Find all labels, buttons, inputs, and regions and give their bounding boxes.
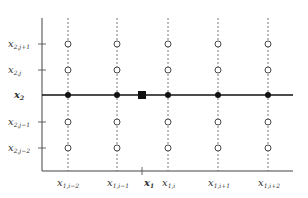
interpolation-diagram: x2,j+1 x2,j x2 x2,j−1 x2,j−2 x1,i−2 x1,i…	[0, 0, 308, 198]
row-label-j-minus-1: x2,j−1	[8, 116, 30, 129]
col-label-i-plus-1: x1,i+1	[208, 177, 230, 189]
col-label-i-minus-1: x1,i−1	[107, 177, 129, 189]
col-label-i: x1,i	[162, 177, 175, 189]
row-label-j-plus-1: x2,j+1	[8, 38, 30, 51]
x1-label: x1	[143, 177, 154, 189]
target-point-square	[138, 91, 146, 99]
row-label-j: x2,j	[8, 64, 21, 77]
col-label-i-plus-2: x1,i+2	[258, 177, 280, 189]
row-label-j-minus-2: x2,j−2	[8, 142, 30, 155]
x2-label: x2	[13, 89, 24, 101]
col-label-i-minus-2: x1,i−2	[57, 177, 79, 189]
